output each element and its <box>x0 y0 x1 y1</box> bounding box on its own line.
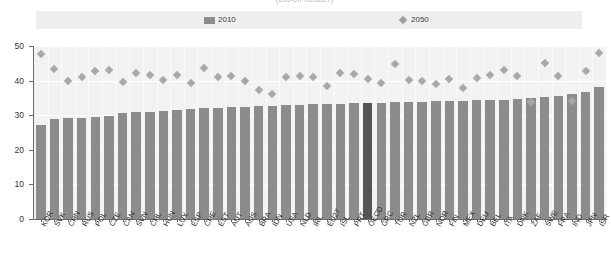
gridline-vertical <box>347 46 348 219</box>
diamond-marker-fin <box>445 75 453 83</box>
gridline-vertical <box>579 46 580 219</box>
bar-grc <box>377 103 387 219</box>
diamond-marker-can <box>118 77 126 85</box>
bar-cze <box>104 116 114 219</box>
gridline-vertical <box>61 46 62 219</box>
bar-aut <box>227 107 237 219</box>
bar-irl <box>308 104 318 219</box>
diamond-marker-isr <box>595 48 603 56</box>
diamond-marker-nzl <box>404 75 412 83</box>
diamond-marker-ita <box>500 66 508 74</box>
bar-chl <box>145 112 155 219</box>
bar-nor <box>431 101 441 219</box>
diamond-marker-aus <box>241 77 249 85</box>
gridline-vertical <box>184 46 185 219</box>
legend-label-2050: 2050 <box>411 15 429 25</box>
gridline-vertical <box>238 46 239 219</box>
x-axis-label-irl: IRL <box>312 214 325 228</box>
gridline-vertical <box>334 46 335 219</box>
bar-nzl <box>404 102 414 219</box>
diamond-marker-chl <box>146 70 154 78</box>
diamond-marker-che <box>200 64 208 72</box>
gridline-vertical <box>48 46 49 219</box>
chart-legend: 2010 2050 <box>36 11 582 29</box>
bar-fin <box>445 101 455 219</box>
gridline-vertical <box>524 46 525 219</box>
bar-fra <box>554 96 564 219</box>
bar-che <box>199 108 209 219</box>
y-axis-tick-label: 50 <box>15 41 24 51</box>
gridline-vertical <box>483 46 484 219</box>
legend-item-2050: 2050 <box>398 14 429 26</box>
x-axis-label-ita: ITA <box>503 214 515 228</box>
bar-esp <box>186 109 196 219</box>
gridline-vertical <box>88 46 89 219</box>
gridline-vertical <box>497 46 498 219</box>
gridline-vertical <box>143 46 144 219</box>
bar-lux <box>172 110 182 219</box>
y-axis-line <box>33 46 34 220</box>
bar-deu <box>472 100 482 219</box>
gridline-vertical <box>470 46 471 219</box>
y-axis-tick <box>29 46 33 47</box>
gridline-vertical <box>306 46 307 219</box>
gridline-vertical <box>538 46 539 219</box>
gridline-vertical <box>293 46 294 219</box>
diamond-marker-idn <box>268 90 276 98</box>
diamond-marker-isl <box>336 68 344 76</box>
diamond-marker-tur <box>391 60 399 68</box>
diamond-marker-jpn <box>581 66 589 74</box>
legend-item-2010: 2010 <box>204 14 236 26</box>
bar-gbr <box>417 102 427 219</box>
bar-mex <box>458 101 468 219</box>
gridline-vertical <box>592 46 593 219</box>
gridline-vertical <box>252 46 253 219</box>
diamond-marker-svk <box>50 65 58 73</box>
diamond-marker-aut <box>227 72 235 80</box>
diamond-marker-mex <box>459 83 467 91</box>
bar-dnk <box>513 99 523 219</box>
gridline-vertical <box>75 46 76 219</box>
plot-area <box>34 46 606 219</box>
gridline-vertical <box>415 46 416 219</box>
gridline-vertical <box>552 46 553 219</box>
y-axis-tick-label: 40 <box>15 76 24 86</box>
bar-svk <box>50 119 60 219</box>
diamond-marker-lux <box>173 71 181 79</box>
gridline-vertical <box>225 46 226 219</box>
chart-title-strip: (cut-off header) <box>0 0 609 9</box>
gridline-vertical <box>402 46 403 219</box>
y-axis-tick <box>29 219 33 220</box>
bar-prt <box>349 103 359 219</box>
gridline-vertical <box>374 46 375 219</box>
bar-rus <box>77 118 87 219</box>
page-title: (cut-off header) <box>0 0 609 4</box>
diamond-marker-chn <box>64 76 72 84</box>
diamond-marker-bra <box>254 85 262 93</box>
diamond-marker-eu27 <box>323 82 331 90</box>
gridline-vertical <box>266 46 267 219</box>
bar-bel <box>485 100 495 219</box>
diamond-marker-swe <box>540 59 548 67</box>
x-axis-label-fin: FIN <box>448 214 461 228</box>
gridline-vertical <box>429 46 430 219</box>
gridline-vertical <box>565 46 566 219</box>
gridline-vertical <box>443 46 444 219</box>
diamond-marker-kor <box>37 50 45 58</box>
y-axis-tick <box>29 150 33 151</box>
gridline-vertical <box>320 46 321 219</box>
legend-label-2010: 2010 <box>218 15 236 25</box>
gridline-vertical <box>279 46 280 219</box>
diamond-marker-fra <box>554 72 562 80</box>
gridline-vertical <box>211 46 212 219</box>
gridline-vertical <box>511 46 512 219</box>
bar-eu27 <box>322 104 332 219</box>
diamond-marker-gbr <box>418 77 426 85</box>
bar-tur <box>390 102 400 219</box>
bar-jpn <box>581 92 591 219</box>
y-axis-tick <box>29 81 33 82</box>
gridline-vertical <box>388 46 389 219</box>
bar-est <box>213 108 223 219</box>
y-axis-tick-label: 30 <box>15 110 24 120</box>
y-axis-tick-label: 20 <box>15 145 24 155</box>
